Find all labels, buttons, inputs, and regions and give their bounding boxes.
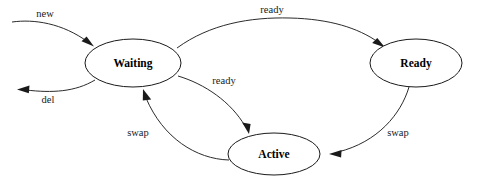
edge-del: del — [17, 80, 95, 105]
edge-del-label: del — [42, 94, 55, 105]
edge-del-path — [26, 80, 95, 91]
node-active-label: Active — [258, 148, 289, 160]
state-transition-diagram: new del ready ready swap — [0, 0, 477, 189]
node-waiting[interactable]: Waiting — [85, 39, 181, 87]
state-diagram-container: new del ready ready swap — [0, 0, 477, 189]
edge-swap-left-arrowhead — [143, 89, 151, 101]
edge-new-arrowhead — [82, 36, 95, 46]
edge-new-path — [12, 21, 88, 42]
node-ready[interactable]: Ready — [370, 39, 462, 87]
edge-swap-left-label: swap — [127, 127, 149, 138]
edge-del-arrowhead — [17, 86, 30, 94]
edge-swap-left-path — [146, 98, 229, 160]
edge-ready-top-path — [177, 18, 378, 48]
edge-ready-waiting-to-active: ready — [178, 75, 251, 134]
edge-swap-right-label: swap — [387, 127, 409, 138]
edge-swap-ready-to-active: swap — [329, 87, 409, 158]
node-waiting-label: Waiting — [114, 57, 153, 70]
edge-new-label: new — [36, 8, 54, 19]
edge-new: new — [12, 8, 94, 46]
node-ready-label: Ready — [400, 57, 432, 70]
edge-swap-active-to-waiting: swap — [127, 89, 229, 160]
edge-ready-waiting-to-ready: ready — [177, 4, 385, 48]
edge-ready-active-label: ready — [212, 75, 236, 86]
edge-swap-right-arrowhead — [329, 150, 342, 158]
node-active[interactable]: Active — [228, 133, 320, 175]
edge-swap-right-path — [338, 87, 409, 152]
edge-ready-active-arrowhead — [242, 123, 251, 134]
edge-ready-top-label: ready — [260, 4, 284, 15]
